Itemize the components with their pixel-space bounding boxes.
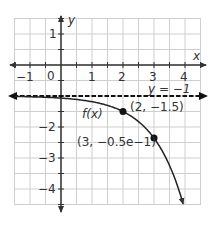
chart-area: y x −1 0 1 2 3 4 1 −2 −3 −4 y = −1 f(x) …: [0, 0, 214, 226]
function-label: f(x): [82, 107, 103, 121]
x-axis-label: x: [192, 49, 201, 63]
y-tick-label: −2: [38, 120, 56, 134]
x-tick-label: 0: [47, 69, 55, 83]
x-tick-label: 1: [88, 70, 96, 84]
y-tick-label: −3: [38, 151, 56, 165]
y-tick-label: −4: [38, 182, 56, 196]
y-tick-label: 1: [49, 27, 57, 41]
x-tick-label: 2: [118, 70, 126, 84]
point-2-neg1-5: [120, 108, 127, 115]
point2-label: (3, −0.5e−1): [77, 135, 156, 149]
y-axis-label: y: [67, 13, 76, 27]
x-tick-label: −1: [16, 70, 34, 84]
point1-label: (2, −1.5): [130, 100, 184, 114]
asymptote-label: y = −1: [147, 82, 190, 96]
